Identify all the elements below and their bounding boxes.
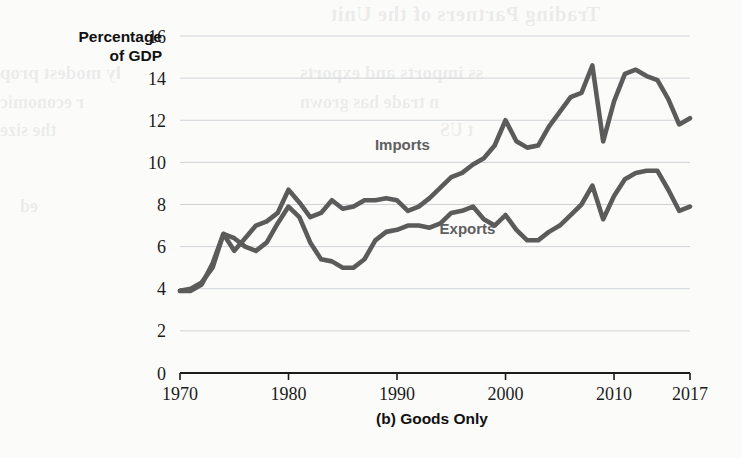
y-tick-label-14: 14 [148,69,166,89]
y-tick-label-4: 4 [157,279,166,299]
y-tick-label-6: 6 [157,237,166,257]
line-chart: 0246810121416 197019801990200020102017 I… [0,0,742,458]
series-line-exports [180,171,690,291]
y-tick-label-0: 0 [157,364,166,384]
y-tick-label-8: 8 [157,195,166,215]
series-annotations: ImportsExports [375,136,496,237]
y-axis-tick-labels: 0246810121416 [148,27,166,384]
y-axis-title-line2: of GDP [109,47,162,64]
annotation-imports: Imports [375,136,430,153]
x-tick-label-1980: 1980 [271,384,307,404]
x-tick-label-2017: 2017 [672,384,708,404]
x-tick-label-2000: 2000 [488,384,524,404]
y-axis-title-line1: Percentage [78,28,162,45]
y-tick-label-2: 2 [157,321,166,341]
panel-caption: (b) Goods Only [376,410,488,427]
series-line-imports [180,65,690,290]
y-tick-label-10: 10 [148,153,166,173]
data-series-lines [180,65,690,290]
x-tick-label-1970: 1970 [162,384,198,404]
x-axis-tick-labels: 197019801990200020102017 [162,384,708,404]
x-axis [180,373,690,380]
annotation-exports: Exports [440,220,496,237]
x-tick-label-2010: 2010 [596,384,632,404]
y-tick-label-12: 12 [148,111,166,131]
x-tick-label-1990: 1990 [379,384,415,404]
gridlines [180,36,690,331]
figure-goods-only: Trading Partners of the Unit ss imports … [0,0,742,458]
